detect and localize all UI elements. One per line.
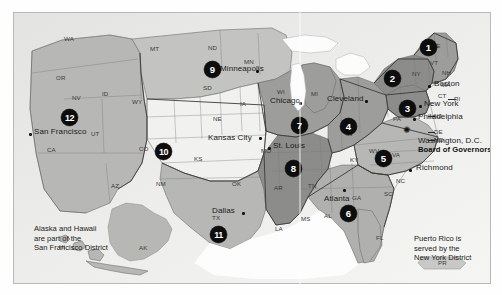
district-marker-9[interactable]: 9: [204, 61, 221, 78]
state-label-NH: NH: [442, 70, 451, 77]
state-label-NM: NM: [156, 181, 166, 188]
state-label-KS: KS: [194, 156, 202, 163]
state-label-SC: SC: [384, 191, 393, 198]
city-dot-boston: [428, 85, 431, 88]
state-label-VT: VT: [430, 60, 438, 67]
state-label-KY: KY: [350, 157, 358, 164]
puerto-rico-note-line2: served by the: [414, 244, 471, 254]
state-label-WA: WA: [64, 36, 74, 43]
state-label-LA: LA: [275, 226, 283, 233]
district-marker-1[interactable]: 1: [420, 39, 437, 56]
alaska-hawaii-note-line2: are part of the: [34, 234, 108, 244]
state-label-UT: UT: [91, 131, 99, 138]
alaska-hawaii-note-line3: San Francisco District: [34, 243, 108, 253]
district-marker-12[interactable]: 12: [61, 109, 78, 126]
district-marker-10[interactable]: 10: [155, 143, 172, 160]
city-label-st-louis: St. Louis: [273, 142, 305, 150]
city-label-cleveland: Cleveland: [327, 95, 363, 103]
state-label-WI: WI: [277, 89, 285, 96]
federal-reserve-districts-map: WA OR ID MT ND SD MN WI MI WY NE IA NV U…: [13, 12, 491, 284]
district-marker-6[interactable]: 6: [340, 205, 357, 222]
state-label-AL: AL: [324, 213, 332, 220]
alaska-hawaii-note: Alaska and Hawaii are part of the San Fr…: [34, 224, 108, 253]
district-marker-11[interactable]: 11: [210, 226, 227, 243]
city-dot-philadelphia: [413, 118, 416, 121]
state-label-NY: NY: [412, 71, 421, 78]
state-label-AR: AR: [274, 185, 283, 192]
state-label-CA: CA: [47, 147, 56, 154]
district-marker-5[interactable]: 5: [375, 150, 392, 167]
state-label-CO: CO: [139, 146, 148, 153]
state-label-VA: VA: [392, 152, 400, 159]
board-of-governors-label: Board of Governors: [418, 146, 491, 154]
state-label-SD: SD: [203, 85, 212, 92]
district-marker-3[interactable]: 3: [399, 100, 416, 117]
alaska-hawaii-note-line1: Alaska and Hawaii: [34, 224, 108, 234]
city-dot-cleveland: [365, 100, 368, 103]
district-marker-4[interactable]: 4: [340, 118, 357, 135]
city-dot-new-york: [419, 105, 422, 108]
city-dot-richmond: [409, 169, 412, 172]
state-label-MT: MT: [150, 46, 159, 53]
city-dot-kansas-city: [259, 137, 262, 140]
city-dot-chicago: [299, 102, 302, 105]
city-dot-minneapolis: [256, 70, 259, 73]
city-label-richmond: Richmond: [416, 164, 453, 172]
city-dot-san-francisco: [29, 133, 32, 136]
state-label-NC: NC: [396, 178, 405, 185]
city-label-philadelphia: Philadelphia: [418, 113, 463, 121]
puerto-rico-note-line3: New York District: [414, 253, 471, 263]
state-label-DE: DE: [434, 129, 443, 136]
city-label-dallas: Dallas: [212, 207, 235, 215]
board-of-governors-star-icon: ✺: [403, 126, 411, 135]
state-label-AZ: AZ: [111, 183, 119, 190]
state-label-WY: WY: [132, 99, 142, 106]
state-label-MS: MS: [301, 216, 310, 223]
state-label-TN: TN: [308, 183, 316, 190]
state-label-IA: IA: [240, 101, 246, 108]
district-marker-7[interactable]: 7: [291, 117, 308, 134]
state-label-OK: OK: [232, 181, 241, 188]
city-label-san-francisco: San Francisco: [34, 128, 86, 136]
puerto-rico-note-line1: Puerto Rico is: [414, 234, 471, 244]
city-label-kansas-city: Kansas City: [208, 134, 252, 142]
state-label-MI: MI: [311, 91, 318, 98]
district-marker-2[interactable]: 2: [384, 70, 401, 87]
puerto-rico-note: Puerto Rico is served by the New York Di…: [414, 234, 471, 263]
state-label-NE: NE: [213, 116, 222, 123]
state-label-NV: NV: [72, 95, 81, 102]
city-label-atlanta: Atlanta: [324, 195, 350, 203]
city-label-new-york: New York: [424, 100, 459, 108]
state-label-ND: ND: [208, 45, 217, 52]
state-label-TX: TX: [212, 215, 220, 222]
state-label-PA: PA: [393, 116, 401, 123]
city-dot-atlanta: [343, 189, 346, 192]
district-marker-8[interactable]: 8: [285, 160, 302, 177]
city-dot-st-louis: [268, 147, 271, 150]
state-label-FL: FL: [376, 235, 383, 242]
city-label-boston: Boston: [434, 80, 460, 88]
city-dot-dallas: [242, 212, 245, 215]
city-label-chicago: Chicago: [270, 97, 300, 105]
state-label-OR: OR: [56, 75, 65, 82]
state-label-GA: GA: [352, 195, 361, 202]
state-label-ID: ID: [102, 91, 108, 98]
state-label-AK: AK: [139, 245, 147, 252]
